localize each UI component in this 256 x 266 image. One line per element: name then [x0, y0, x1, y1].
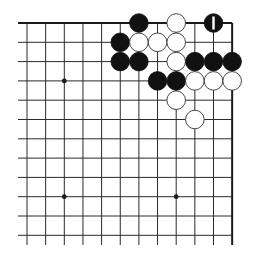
- white-stone-icon: [204, 72, 223, 91]
- white-stone-icon: [186, 110, 205, 129]
- white-stone[interactable]: [204, 72, 223, 91]
- white-stone[interactable]: [186, 72, 205, 91]
- black-stone-icon: [148, 72, 167, 91]
- white-stone[interactable]: [167, 33, 186, 52]
- white-stone-icon: [148, 33, 167, 52]
- white-stone[interactable]: [148, 33, 167, 52]
- white-stone[interactable]: [223, 72, 242, 91]
- black-stone[interactable]: [204, 14, 223, 33]
- white-stone-icon: [167, 33, 186, 52]
- black-stone-icon: [111, 52, 130, 71]
- white-stone-icon: [130, 33, 149, 52]
- black-stone[interactable]: [204, 52, 223, 71]
- go-board[interactable]: [0, 0, 256, 266]
- black-stone-icon: [167, 72, 186, 91]
- black-stone[interactable]: [167, 72, 186, 91]
- star-point-icon: [62, 79, 67, 84]
- black-stone[interactable]: [148, 72, 167, 91]
- black-stone-icon: [186, 52, 205, 71]
- black-stone-icon: [111, 33, 130, 52]
- black-stone[interactable]: [111, 52, 130, 71]
- black-stone[interactable]: [130, 14, 149, 33]
- move-number-marker-icon: [212, 17, 214, 30]
- white-stone-icon: [186, 72, 205, 91]
- black-stone-icon: [204, 52, 223, 71]
- black-stone-icon: [130, 14, 149, 33]
- white-stone-icon: [167, 52, 186, 71]
- white-stone-icon: [167, 14, 186, 33]
- star-point-icon: [62, 194, 67, 199]
- white-stone-icon: [167, 91, 186, 110]
- black-stone[interactable]: [130, 52, 149, 71]
- white-stone[interactable]: [167, 91, 186, 110]
- black-stone[interactable]: [111, 33, 130, 52]
- black-stone[interactable]: [186, 52, 205, 71]
- black-stone[interactable]: [223, 52, 242, 71]
- white-stone[interactable]: [167, 52, 186, 71]
- white-stone[interactable]: [167, 14, 186, 33]
- star-point-icon: [174, 194, 179, 199]
- black-stone-icon: [223, 52, 242, 71]
- white-stone-icon: [223, 72, 242, 91]
- black-stone-icon: [130, 52, 149, 71]
- white-stone[interactable]: [186, 110, 205, 129]
- white-stone[interactable]: [130, 33, 149, 52]
